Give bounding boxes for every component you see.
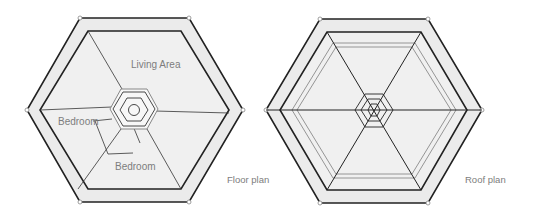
room-label-bedroom-2: Bedroom — [115, 161, 156, 172]
floor-plan: Living Area Bedroom Bedroom Floor plan — [25, 16, 269, 204]
room-label-bedroom-1: Bedroom — [58, 116, 99, 127]
room-label-living-area: Living Area — [131, 59, 181, 70]
roof-plan-caption: Roof plan — [465, 174, 506, 185]
plans-canvas: Living Area Bedroom Bedroom Floor plan R… — [0, 0, 533, 215]
floor-plan-caption: Floor plan — [227, 174, 269, 185]
roof-plan: Roof plan — [264, 17, 506, 205]
floor-central-core — [110, 89, 158, 129]
